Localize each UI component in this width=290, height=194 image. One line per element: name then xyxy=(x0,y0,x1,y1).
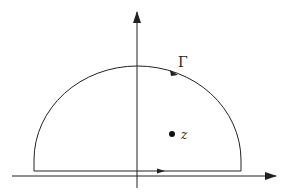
contour-diagram: Γ z xyxy=(0,0,290,194)
point-z-dot xyxy=(169,131,175,137)
baseline-direction-arrow-icon xyxy=(157,169,165,174)
point-z-label: z xyxy=(180,128,188,142)
gamma-label: Γ xyxy=(178,54,188,70)
